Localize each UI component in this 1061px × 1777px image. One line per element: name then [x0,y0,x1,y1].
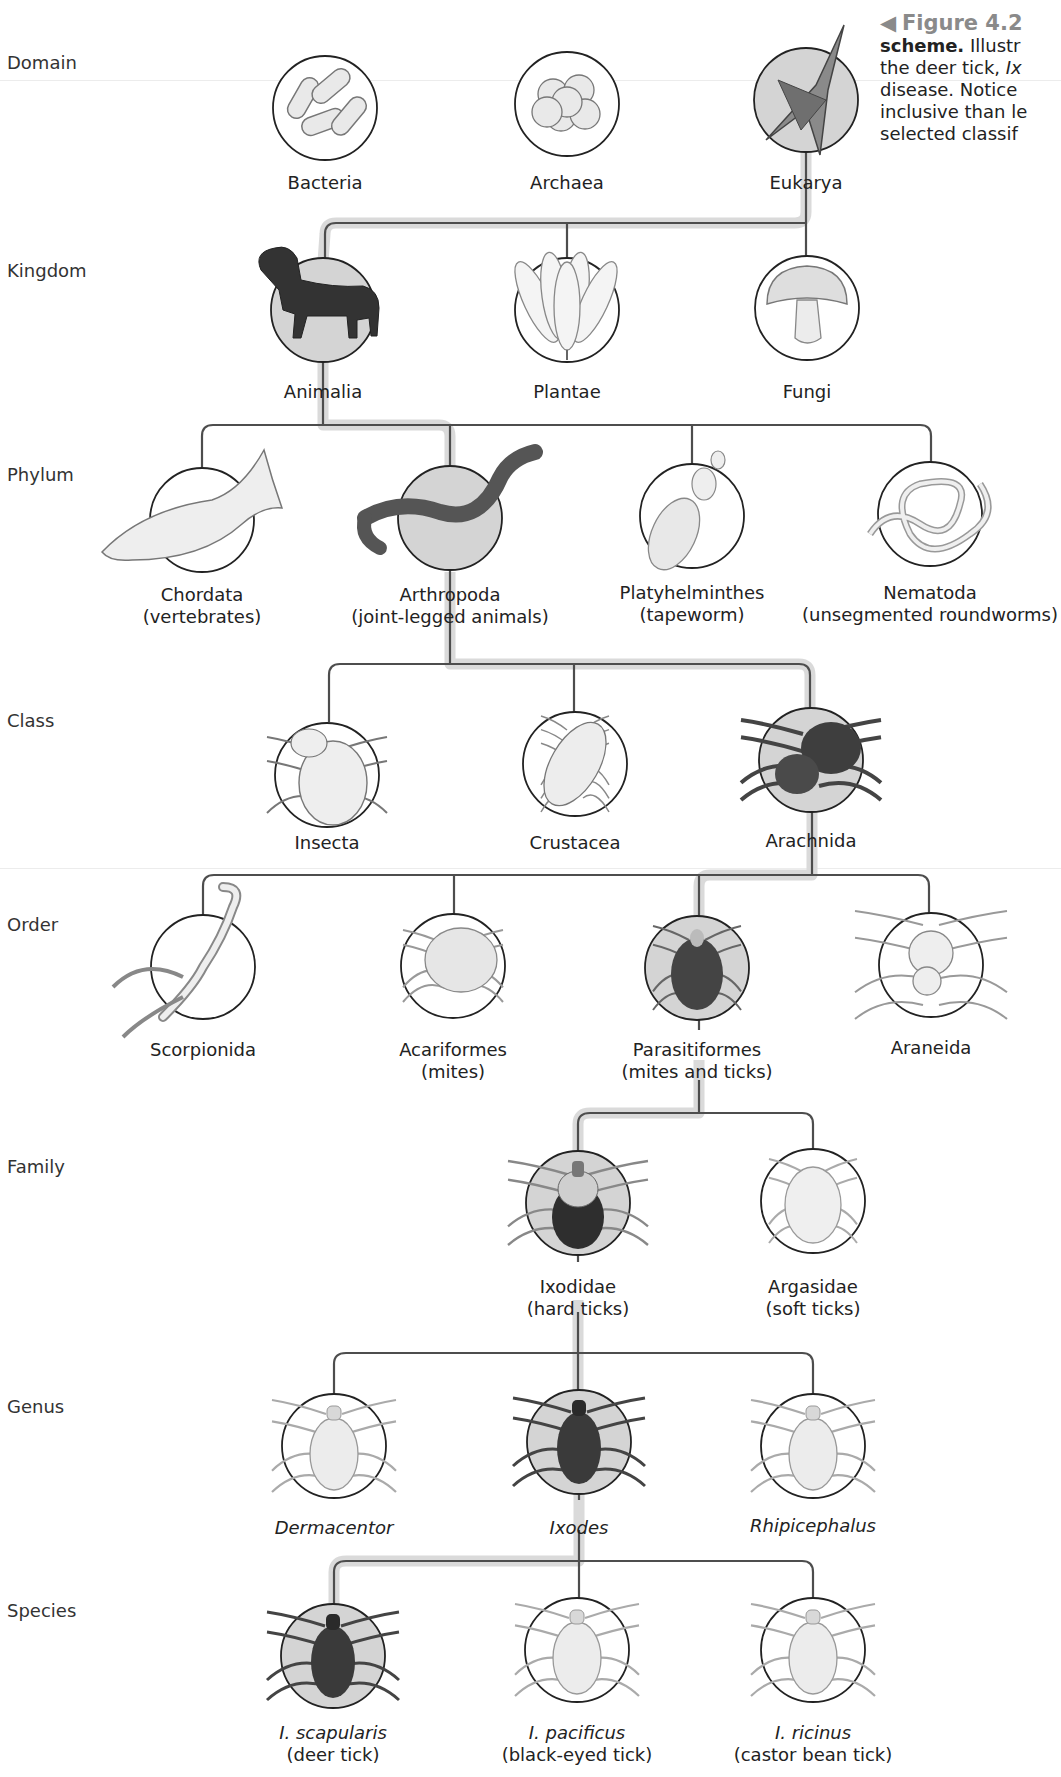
classification-diagram: Domain Kingdom Phylum Class Order Family… [0,0,1061,1777]
taxon-label: Araneida [891,1037,972,1059]
caption-lead: scheme. [880,35,964,56]
common-name: (soft ticks) [766,1298,861,1320]
caption-text: the deer tick, [880,57,1006,78]
common-name: (deer tick) [279,1744,387,1766]
taxon-name: Acariformes [399,1039,507,1060]
taxon-label: Nematoda(unsegmented roundworms) [802,582,1058,626]
taxon-node-acariformes [401,914,505,1018]
taxon-label: Arachnida [766,830,857,852]
taxon-node-archaea [515,52,619,156]
taxon-name: Bacteria [288,172,363,193]
taxon-label: Archaea [530,172,604,194]
common-name: (hard ticks) [527,1298,629,1320]
taxon-node-bacteria [273,56,377,160]
taxon-node-i-ricinus [751,1598,875,1702]
taxon-name: Parasitiformes [633,1039,761,1060]
taxon-label: Ixodes [550,1517,609,1539]
taxon-name: Plantae [533,381,600,402]
common-name: (mites and ticks) [621,1061,772,1083]
taxon-node-insecta [267,723,387,827]
taxon-label: Argasidae(soft ticks) [766,1276,861,1320]
taxon-label: Bacteria [288,172,363,194]
taxon-label: Insecta [294,832,359,854]
taxon-label: I. ricinus(castor bean tick) [734,1722,893,1766]
taxon-label: Ixodidae(hard ticks) [527,1276,629,1320]
taxon-label: Chordata(vertebrates) [143,584,262,628]
taxon-label: Parasitiformes(mites and ticks) [621,1039,772,1083]
taxon-node-i-pacificus [515,1598,639,1702]
taxon-name: Ixodes [550,1517,609,1538]
figure-caption: ◀ Figure 4.2 scheme. Illustr the deer ti… [880,12,1061,145]
rank-class: Class [7,710,54,731]
taxon-label: Arthropoda(joint-legged animals) [351,584,549,628]
taxon-node-rhipicephalus [751,1394,875,1498]
tree-svg [0,0,1061,1777]
taxon-name: Fungi [783,381,832,402]
common-name: (mites) [399,1061,507,1083]
taxon-node-i-scapularis [267,1604,399,1708]
taxon-node-araneida [855,911,1007,1019]
taxon-label: Acariformes(mites) [399,1039,507,1083]
taxon-node-fungi [755,256,859,360]
rank-kingdom: Kingdom [7,260,87,281]
taxon-name: Arachnida [766,830,857,851]
highlight-path [323,150,812,1608]
fish-icon [102,450,282,560]
taxon-label: Animalia [284,381,362,403]
taxon-label: Eukarya [769,172,842,194]
taxon-node-nematoda [870,462,988,566]
taxon-name: Argasidae [768,1276,858,1297]
taxon-name: Crustacea [530,832,621,853]
common-name: (black-eyed tick) [502,1744,653,1766]
taxon-node-ixodidae [508,1151,648,1255]
taxon-node-chordata [102,450,282,572]
taxon-name: Ixodidae [540,1276,616,1297]
taxon-label: Fungi [783,381,832,403]
rank-order: Order [7,914,58,935]
taxon-name: I. pacificus [529,1722,625,1743]
taxon-name: Platyhelminthes [620,582,765,603]
taxon-node-parasitiformes [645,916,749,1020]
taxon-label: Dermacentor [275,1517,394,1539]
rank-domain: Domain [7,52,77,73]
taxon-node-crustacea [523,712,627,816]
rank-genus: Genus [7,1396,64,1417]
taxon-label: Plantae [533,381,600,403]
taxon-name: Animalia [284,381,362,402]
tree-connectors [202,152,931,1605]
taxon-node-ixodes [513,1390,645,1494]
caption-text: inclusive than le [880,101,1061,123]
rank-phylum: Phylum [7,464,74,485]
taxon-node-scorpionida [113,887,255,1037]
common-name: (tapeworm) [620,604,765,626]
taxon-name: Eukarya [769,172,842,193]
taxon-node-platyhelminthes [638,451,744,578]
caption-marker-icon: ◀ [880,11,896,35]
taxon-label: Platyhelminthes(tapeworm) [620,582,765,626]
figure-number: Figure 4.2 [902,11,1023,35]
taxon-nodes [102,25,1007,1708]
caption-text: Illustr [964,35,1020,56]
rank-species: Species [7,1600,76,1621]
taxon-name: Rhipicephalus [750,1515,876,1536]
taxon-node-animalia [259,247,379,362]
taxon-name: Scorpionida [150,1039,256,1060]
archaea-icon [532,75,600,131]
taxon-node-arthropoda [364,452,535,570]
taxon-name: Arthropoda [399,584,500,605]
common-name: (castor bean tick) [734,1744,893,1766]
taxon-name: Chordata [161,584,244,605]
taxon-name: I. scapularis [279,1722,387,1743]
common-name: (joint-legged animals) [351,606,549,628]
taxon-label: Rhipicephalus [750,1515,876,1537]
taxon-name: Araneida [891,1037,972,1058]
taxon-name: I. ricinus [775,1722,851,1743]
taxon-label: I. pacificus(black-eyed tick) [502,1722,653,1766]
common-name: (unsegmented roundworms) [802,604,1058,626]
taxon-node-argasidae [761,1149,865,1253]
taxon-name: Dermacentor [275,1517,394,1538]
taxon-name: Insecta [294,832,359,853]
taxon-label: Scorpionida [150,1039,256,1061]
taxon-label: Crustacea [530,832,621,854]
taxon-name: Nematoda [883,582,977,603]
